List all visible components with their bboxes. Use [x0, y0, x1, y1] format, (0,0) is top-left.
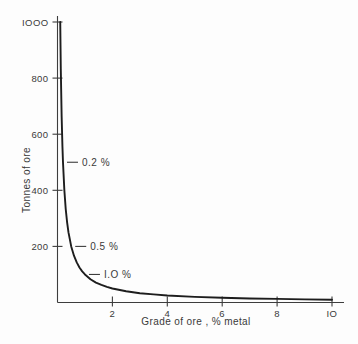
y-tick-label: 800 [31, 73, 48, 84]
curve-annotation: 0.2 % [67, 157, 110, 168]
y-tick-label: IOOO [22, 17, 48, 28]
x-tick: 2 [110, 297, 116, 319]
annotation-label: I.O % [104, 269, 132, 280]
x-tick-label: 2 [110, 308, 116, 319]
y-tick-label: 200 [31, 241, 48, 252]
annotation-label: 0.5 % [90, 241, 118, 252]
chart-canvas: 200400600800IOOO 2468IO 0.2 %0.5 %I.O % … [0, 0, 358, 344]
curve-annotation: I.O % [89, 269, 132, 280]
curve-annotation: 0.5 % [75, 241, 118, 252]
annotation-label: 0.2 % [82, 157, 110, 168]
chart-figure: 200400600800IOOO 2468IO 0.2 %0.5 %I.O % … [0, 0, 358, 344]
y-tick-label: 400 [31, 185, 48, 196]
y-tick-label: 600 [31, 129, 48, 140]
y-axis-ticks: 200400600800IOOO [22, 17, 62, 252]
y-tick: IOOO [22, 17, 62, 28]
x-tick-label: IO [327, 308, 338, 319]
x-tick-label: 8 [274, 308, 280, 319]
x-axis-title: Grade of ore , % metal [141, 316, 250, 327]
y-axis-title: Tonnes of ore [21, 147, 32, 213]
